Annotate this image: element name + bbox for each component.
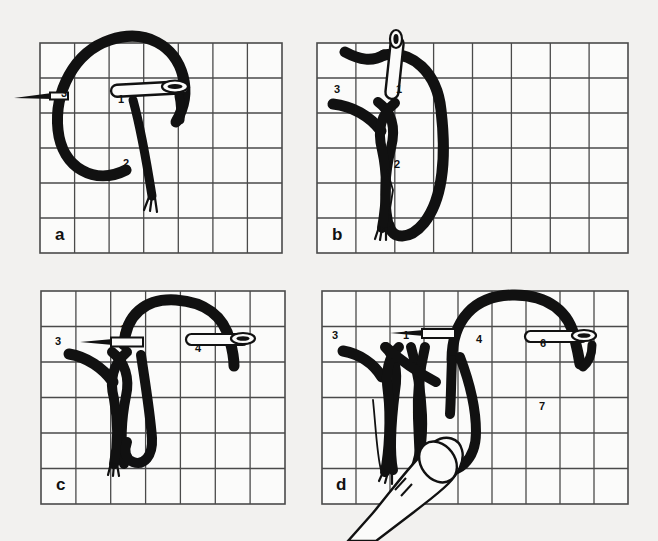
step-label-1: 1 — [118, 93, 124, 105]
step-label-1: 1 — [403, 329, 409, 341]
step-label-3: 3 — [332, 329, 338, 341]
step-label-3: 3 — [61, 87, 67, 99]
step-label-2: 2 — [413, 403, 419, 415]
step-label-5: 5 — [472, 400, 478, 412]
panel-label-a: a — [55, 225, 65, 244]
panel-label-d: d — [336, 475, 346, 494]
figure-sheet: 1 2 3 a — [0, 0, 658, 541]
step-label-7: 7 — [539, 400, 545, 412]
grid-c — [41, 291, 285, 504]
panel-label-b: b — [332, 225, 342, 244]
step-label-3: 3 — [55, 335, 61, 347]
grid-b — [317, 43, 628, 253]
step-label-3: 3 — [334, 83, 340, 95]
step-label-1: 1 — [396, 83, 402, 95]
step-label-2: 2 — [394, 158, 400, 170]
grid-a — [40, 43, 282, 253]
step-label-2: 2 — [112, 403, 118, 415]
step-label-4: 4 — [195, 342, 202, 354]
panel-c: 1 2 3 4 c — [0, 270, 300, 541]
panel-d: 1 2 3 4 5 6 7 d — [300, 270, 658, 541]
step-label-1: 1 — [120, 323, 126, 335]
step-label-2: 2 — [123, 157, 129, 169]
panel-a: 1 2 3 a — [0, 0, 300, 270]
thread-end-a — [179, 96, 181, 120]
step-label-6: 6 — [540, 337, 546, 349]
needle-horizontal-right — [525, 330, 596, 342]
panel-b: 1 2 3 b — [300, 0, 658, 270]
panel-label-c: c — [56, 475, 65, 494]
step-label-4: 4 — [476, 333, 483, 345]
